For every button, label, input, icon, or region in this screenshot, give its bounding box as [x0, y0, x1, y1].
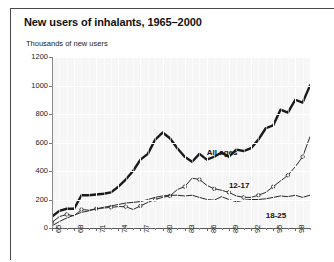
- gridline-vertical: [74, 57, 75, 228]
- x-tick-label: 95: [276, 225, 284, 233]
- gridline-vertical: [163, 57, 164, 228]
- gridline-vertical: [295, 57, 296, 228]
- gridline-vertical: [81, 57, 82, 228]
- x-tick-mark: [52, 228, 53, 231]
- gridline-vertical: [244, 57, 245, 228]
- gridline-vertical: [199, 57, 200, 228]
- y-tick-label: 1000: [6, 82, 48, 90]
- x-tick-label: 71: [99, 225, 107, 233]
- x-tick-label: 83: [188, 225, 196, 233]
- gridline-vertical: [207, 57, 208, 228]
- gridline-horizontal: [52, 143, 310, 144]
- figure-panel: New users of inhalants, 1965–2000 Thousa…: [0, 0, 334, 262]
- x-tick-mark: [163, 228, 164, 231]
- x-tick-label: 65: [55, 225, 63, 233]
- y-axis-line: [52, 57, 53, 228]
- series-annotation-all-ages: All ages: [207, 148, 238, 157]
- y-tick-label: 1200: [6, 53, 48, 61]
- series-annotation-12-17: 12-17: [229, 181, 249, 190]
- gridline-vertical: [214, 57, 215, 228]
- x-tick-mark-minor: [177, 228, 178, 230]
- x-tick-mark-minor: [133, 228, 134, 230]
- x-tick-mark-minor: [111, 228, 112, 230]
- y-tick-label: 200: [6, 196, 48, 204]
- y-tick-label: 800: [6, 110, 48, 118]
- gridline-vertical: [310, 57, 311, 228]
- gridline-vertical: [281, 57, 282, 228]
- gridline-vertical: [67, 57, 68, 228]
- x-tick-mark-minor: [222, 228, 223, 230]
- gridline-vertical: [258, 57, 259, 228]
- gridline-vertical: [185, 57, 186, 228]
- gridline-vertical: [118, 57, 119, 228]
- x-tick-mark-minor: [244, 228, 245, 230]
- gridline-vertical: [222, 57, 223, 228]
- gridline-vertical: [104, 57, 105, 228]
- x-tick-mark-minor: [310, 228, 311, 230]
- gridline-vertical: [155, 57, 156, 228]
- x-tick-label: 92: [254, 225, 262, 233]
- gridline-vertical: [303, 57, 304, 228]
- frame-top-rule: [10, 8, 334, 9]
- x-tick-mark: [185, 228, 186, 231]
- y-tick-mark: [49, 171, 52, 172]
- x-tick-mark-minor: [89, 228, 90, 230]
- x-axis-line: [52, 228, 310, 229]
- y-tick-mark: [49, 200, 52, 201]
- gridline-vertical: [251, 57, 252, 228]
- x-tick-label: 98: [298, 225, 306, 233]
- x-tick-label: 68: [77, 225, 85, 233]
- gridline-horizontal: [52, 114, 310, 115]
- x-tick-mark: [207, 228, 208, 231]
- gridline-vertical: [288, 57, 289, 228]
- x-tick-mark-minor: [67, 228, 68, 230]
- frame-left-rule: [10, 8, 11, 260]
- y-tick-label: 0: [6, 224, 48, 232]
- y-tick-mark: [49, 143, 52, 144]
- gridline-vertical: [266, 57, 267, 228]
- gridline-vertical: [236, 57, 237, 228]
- gridline-vertical: [133, 57, 134, 228]
- series-line-all-ages: [52, 86, 310, 217]
- x-tick-mark-minor: [155, 228, 156, 230]
- gridline-horizontal: [52, 171, 310, 172]
- x-tick-label: 89: [232, 225, 240, 233]
- gridline-horizontal: [52, 86, 310, 87]
- gridline-vertical: [170, 57, 171, 228]
- series-annotation-18-25: 18-25: [266, 211, 286, 220]
- x-tick-label: 74: [121, 225, 129, 233]
- x-tick-mark-minor: [199, 228, 200, 230]
- chart-title: New users of inhalants, 1965–2000: [24, 16, 202, 28]
- gridline-vertical: [111, 57, 112, 228]
- gridline-vertical: [140, 57, 141, 228]
- y-tick-mark: [49, 57, 52, 58]
- y-axis-label: Thousands of new users: [26, 39, 108, 48]
- gridline-vertical: [177, 57, 178, 228]
- gridline-vertical: [273, 57, 274, 228]
- x-tick-mark-minor: [266, 228, 267, 230]
- y-tick-mark: [49, 114, 52, 115]
- x-tick-mark: [229, 228, 230, 231]
- gridline-vertical: [126, 57, 127, 228]
- gridline-horizontal: [52, 57, 310, 58]
- plot-area: [52, 57, 310, 228]
- x-tick-label: 86: [210, 225, 218, 233]
- gridline-vertical: [59, 57, 60, 228]
- x-tick-mark: [273, 228, 274, 231]
- gridline-vertical: [96, 57, 97, 228]
- x-tick-mark: [74, 228, 75, 231]
- y-tick-mark: [49, 86, 52, 87]
- gridline-vertical: [148, 57, 149, 228]
- y-tick-label: 600: [6, 139, 48, 147]
- x-tick-label: 77: [143, 225, 151, 233]
- x-tick-mark-minor: [288, 228, 289, 230]
- gridline-vertical: [192, 57, 193, 228]
- gridline-vertical: [89, 57, 90, 228]
- gridline-vertical: [229, 57, 230, 228]
- x-tick-mark: [251, 228, 252, 231]
- y-tick-label: 400: [6, 167, 48, 175]
- series-line-12-17: [52, 137, 310, 223]
- gridline-horizontal: [52, 200, 310, 201]
- x-tick-label: 80: [166, 225, 174, 233]
